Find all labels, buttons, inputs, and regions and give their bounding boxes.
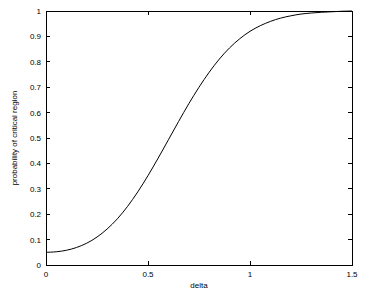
x-tick-label: 0 (44, 270, 49, 279)
y-tick-label: 0.7 (30, 83, 42, 92)
y-tick-label: 0.5 (30, 134, 42, 143)
plot-area-background (46, 11, 352, 265)
x-tick-label: 0.5 (142, 270, 154, 279)
y-tick-label: 0.2 (30, 210, 42, 219)
y-tick-label: 0.3 (30, 185, 42, 194)
x-tick-label: 1.5 (346, 270, 358, 279)
y-tick-label: 0.8 (30, 58, 42, 67)
y-tick-label: 0.9 (30, 32, 42, 41)
power-function-line-chart: 00.511.5 00.10.20.30.40.50.60.70.80.91 d… (0, 0, 365, 293)
x-tick-label: 1 (248, 270, 253, 279)
y-tick-label: 0.4 (30, 159, 42, 168)
y-tick-label: 0.6 (30, 109, 42, 118)
y-axis-title: probability of critical region (10, 91, 19, 186)
x-axis-title: delta (190, 281, 208, 290)
y-tick-label: 0 (37, 261, 42, 270)
y-tick-label: 0.1 (30, 236, 42, 245)
y-tick-label: 1 (37, 7, 42, 16)
chart-figure: 00.511.5 00.10.20.30.40.50.60.70.80.91 d… (0, 0, 365, 293)
